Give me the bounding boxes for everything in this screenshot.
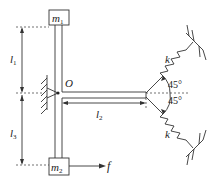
lower-angle-label: 45° <box>168 95 182 106</box>
upper-spring-k-label: k <box>165 53 171 65</box>
l3-label: l3 <box>10 127 17 141</box>
mass-m2-label: m2 <box>51 161 63 175</box>
force-label: f <box>107 159 112 173</box>
lower-spring-k-label: k <box>165 128 171 140</box>
lower-spring-wall <box>186 130 206 165</box>
upper-angle-label: 45° <box>168 79 182 90</box>
l1-label: l1 <box>10 53 17 67</box>
upper-spring-wall <box>186 25 206 60</box>
mass-m1-label: m1 <box>52 12 64 26</box>
pivot-label: O <box>65 77 73 89</box>
l2-label: l2 <box>96 108 103 122</box>
physics-diagram: m1 m2 O l1 l3 l2 f k k 45° 45° <box>0 0 217 188</box>
reference-dashes <box>16 27 190 165</box>
pivot-point <box>56 91 59 94</box>
